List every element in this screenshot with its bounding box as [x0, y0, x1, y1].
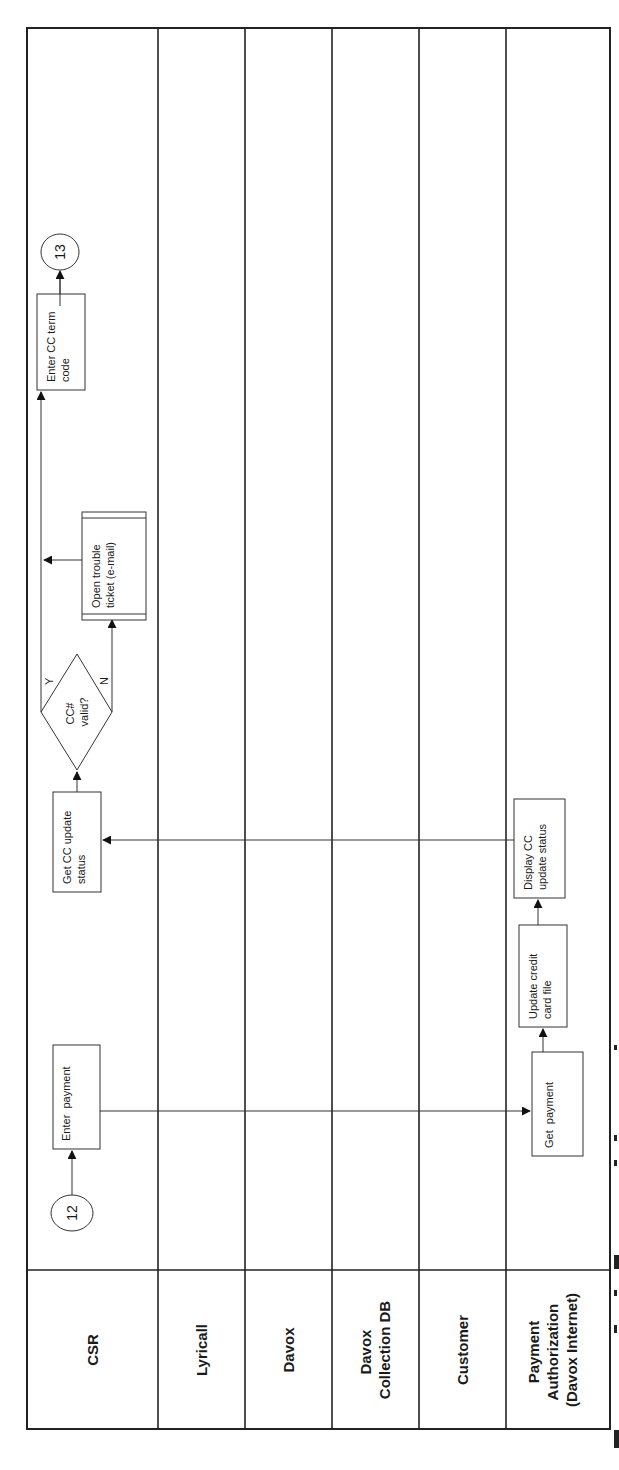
- lane-label-payment-authorization: Payment Authorization (Davox Internet): [525, 1293, 580, 1407]
- decision-yes-label: Y: [43, 677, 55, 685]
- svg-text:13: 13: [52, 244, 68, 260]
- step-display-cc-update-status: Display CC update status: [514, 799, 565, 898]
- end-connector-13: 13: [41, 234, 79, 270]
- step-get-cc-update-status: Get CC update status: [53, 792, 101, 892]
- step-get-payment: Get payment: [532, 1052, 583, 1156]
- lane-label-davox: Davox: [280, 1327, 297, 1373]
- decision-cc-valid: CC# valid? Y N: [41, 654, 112, 770]
- swimlane-diagram: CSR Lyricall Davox Davox Collection DB C…: [0, 0, 619, 1470]
- svg-text:Get payment: Get payment: [543, 1082, 555, 1148]
- lane-label-customer: Customer: [454, 1315, 471, 1385]
- svg-text:Enter payment: Enter payment: [60, 1066, 72, 1141]
- start-connector-12: 12: [51, 1195, 93, 1231]
- lane-label-lyricall: Lyricall: [193, 1324, 210, 1376]
- step-enter-payment: Enter payment: [53, 1045, 100, 1149]
- decision-no-label: N: [98, 677, 110, 685]
- caption-fragment: [614, 1045, 619, 1448]
- step-enter-cc-term-code: Enter CC term code: [37, 294, 85, 390]
- step-open-trouble-ticket: Open trouble ticket (e-mail): [82, 512, 146, 620]
- step-update-credit-card-file: Update credit card file: [519, 925, 567, 1027]
- diagram-frame: [27, 28, 610, 1429]
- diagram-canvas: CSR Lyricall Davox Davox Collection DB C…: [27, 28, 610, 1429]
- lane-label-davox-collection-db: Davox Collection DB: [357, 1301, 393, 1400]
- lane-label-csr: CSR: [84, 1334, 101, 1366]
- svg-text:12: 12: [64, 1205, 80, 1221]
